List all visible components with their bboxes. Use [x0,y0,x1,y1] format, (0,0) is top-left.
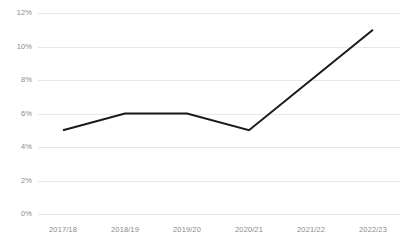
series-layer [0,0,410,244]
series-line [63,30,373,131]
line-chart: 0%2%4%6%8%10%12% 2017/182018/192019/2020… [0,0,410,244]
